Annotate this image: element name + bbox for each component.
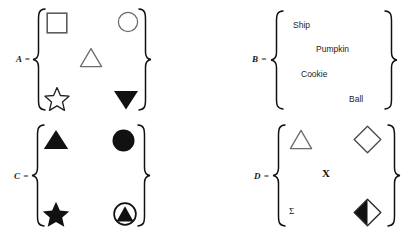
set-d-label: D = bbox=[254, 171, 269, 181]
hollow-star-icon bbox=[44, 86, 70, 116]
set-b-open-brace bbox=[270, 10, 284, 110]
letter-x-glyph: X bbox=[322, 167, 330, 179]
word-cookie: Cookie bbox=[301, 69, 327, 79]
circled-filled-triangle-icon bbox=[113, 202, 137, 230]
filled-star-icon bbox=[42, 201, 70, 232]
set-b-block: B = Ship Pumpkin Cookie Ball bbox=[201, 0, 403, 117]
word-ship: Ship bbox=[293, 20, 310, 30]
figure-canvas: A = bbox=[0, 0, 403, 235]
set-b-label: B = bbox=[252, 54, 267, 64]
set-a-block: A = bbox=[0, 0, 201, 117]
set-c-close-brace bbox=[137, 124, 151, 227]
filled-triangle-icon bbox=[43, 129, 69, 154]
half-filled-diamond-icon bbox=[353, 198, 382, 231]
set-c-label: C = bbox=[14, 171, 29, 181]
word-ball: Ball bbox=[349, 94, 363, 104]
filled-down-triangle-icon bbox=[113, 90, 139, 114]
word-pumpkin: Pumpkin bbox=[316, 44, 349, 54]
hollow-diamond-icon bbox=[353, 125, 382, 158]
hollow-triangle-icon bbox=[289, 129, 313, 154]
hollow-square-icon bbox=[46, 12, 68, 38]
set-d-block: D = X Σ bbox=[201, 117, 403, 235]
set-a-label: A = bbox=[16, 54, 30, 64]
set-c-block: C = bbox=[0, 117, 201, 235]
filled-circle-icon bbox=[112, 129, 135, 156]
greek-sigma-glyph: Σ bbox=[289, 206, 294, 216]
set-a-close-brace bbox=[138, 8, 152, 111]
set-d-open-brace bbox=[272, 124, 286, 227]
hollow-triangle-icon bbox=[79, 47, 103, 72]
set-b-close-brace bbox=[384, 10, 398, 110]
set-d-close-brace bbox=[387, 124, 401, 227]
hollow-circle-icon bbox=[117, 11, 139, 37]
